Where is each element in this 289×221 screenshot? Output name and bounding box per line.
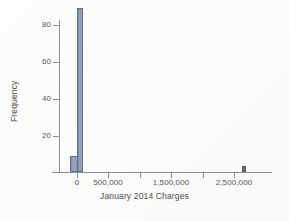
x-axis-tick-label: 1,500,000 bbox=[153, 179, 190, 187]
x-axis-line bbox=[52, 172, 272, 173]
y-axis-tick-label: 40 bbox=[21, 95, 51, 103]
plot-area: 80 60 40 20 0 500,000 1,500,000 2,500,00… bbox=[0, 0, 289, 221]
x-axis-tick-label: 0 bbox=[75, 179, 80, 187]
x-axis-tick bbox=[140, 173, 141, 178]
histogram-bar bbox=[242, 166, 246, 172]
y-axis-tick-label: 60 bbox=[21, 58, 51, 66]
y-axis-tick-label: 80 bbox=[21, 21, 51, 29]
y-axis-tick bbox=[53, 62, 59, 63]
x-axis-tick-label: 500,000 bbox=[93, 179, 123, 187]
histogram-bar bbox=[77, 8, 83, 172]
y-axis-title: Frequency bbox=[7, 58, 21, 144]
y-axis-tick bbox=[53, 99, 59, 100]
histogram-figure: 80 60 40 20 0 500,000 1,500,000 2,500,00… bbox=[0, 0, 289, 221]
x-axis-tick-label: 2,500,000 bbox=[216, 179, 253, 187]
y-axis-tick bbox=[53, 25, 59, 26]
y-axis-tick bbox=[53, 136, 59, 137]
y-axis-tick-label: 20 bbox=[21, 132, 51, 140]
y-axis-line bbox=[59, 20, 60, 173]
x-axis-title: January 2014 Charges bbox=[0, 191, 289, 201]
x-axis-tick bbox=[203, 173, 204, 178]
